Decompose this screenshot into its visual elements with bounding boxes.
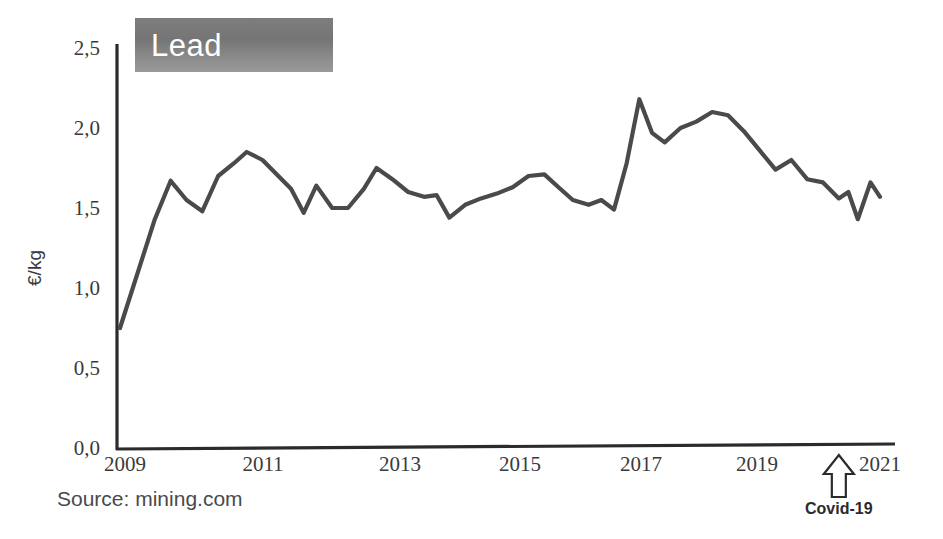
lead-price-chart: 0,0 0,5 1,0 1,5 2,0 2,5 €/kg 2009 2011 2… — [0, 0, 943, 539]
y-tick-label: 0,0 — [44, 436, 100, 461]
y-axis-title: €/kg — [24, 250, 46, 286]
covid-annotation-label: Covid-19 — [805, 500, 873, 518]
x-tick-label: 2011 — [242, 452, 283, 477]
x-tick-label: 2019 — [736, 452, 778, 477]
y-axis-tick-labels: 0,0 0,5 1,0 1,5 2,0 2,5 — [44, 0, 100, 539]
chart-title-banner: Lead — [135, 18, 333, 72]
data-line-lead — [120, 99, 880, 328]
y-tick-label: 2,0 — [44, 116, 100, 141]
covid-arrow-icon — [824, 455, 854, 497]
y-tick-label: 1,5 — [44, 196, 100, 221]
source-note: Source: mining.com — [57, 487, 243, 511]
y-tick-label: 1,0 — [44, 276, 100, 301]
x-tick-label: 2015 — [499, 452, 541, 477]
x-tick-label: 2017 — [620, 452, 662, 477]
x-tick-label: 2009 — [104, 452, 146, 477]
y-tick-label: 2,5 — [44, 36, 100, 61]
x-axis-line — [116, 444, 895, 449]
x-tick-label: 2013 — [379, 452, 421, 477]
chart-title: Lead — [151, 30, 222, 61]
y-tick-label: 0,5 — [44, 356, 100, 381]
x-tick-label: 2021 — [859, 452, 901, 477]
